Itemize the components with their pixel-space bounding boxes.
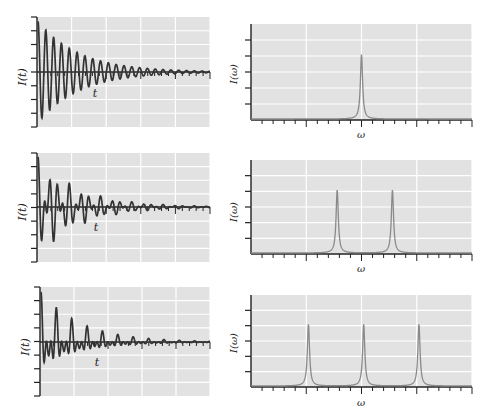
freq-ylabel-1: I(ω) (228, 64, 239, 85)
time-xlabel-2: t (94, 221, 99, 234)
panel-row2-left (31, 153, 210, 262)
panel-row1-right (245, 24, 472, 127)
panel-row1-left (31, 17, 210, 127)
fid-spectrum-figure: I(t) t I(ω) ω I(t) t I(ω) ω I(t) t I(ω) … (0, 0, 485, 417)
time-ylabel-3: I(t) (19, 338, 32, 356)
time-ylabel-1: I(t) (16, 68, 29, 86)
freq-ylabel-3: I(ω) (228, 333, 239, 354)
time-ylabel-2: I(t) (16, 203, 29, 221)
panel-row3-right (245, 295, 472, 394)
panel-row2-right (245, 160, 472, 261)
freq-xlabel-2: ω (357, 263, 365, 274)
time-xlabel-3: t (95, 356, 100, 369)
freq-xlabel-1: ω (357, 129, 365, 140)
panel-row3-left (34, 287, 210, 396)
freq-xlabel-3: ω (357, 397, 365, 408)
time-xlabel-1: t (93, 87, 98, 100)
freq-ylabel-2: I(ω) (228, 202, 239, 223)
